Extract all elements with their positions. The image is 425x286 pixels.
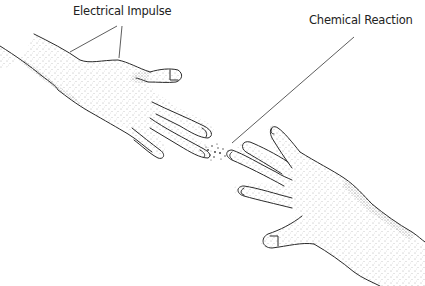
left-hand bbox=[0, 34, 214, 158]
chemical-leader-line bbox=[232, 37, 354, 143]
right-hand bbox=[227, 125, 425, 286]
electrical-impulse-label: Electrical Impulse bbox=[73, 4, 171, 18]
electrical-leader-lines bbox=[70, 26, 122, 58]
hands-illustration bbox=[0, 0, 425, 286]
synapse-hands-diagram: Electrical Impulse Chemical Reaction bbox=[0, 0, 425, 286]
chemical-reaction-label: Chemical Reaction bbox=[309, 13, 413, 27]
